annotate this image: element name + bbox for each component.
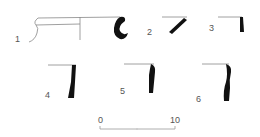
sherd-4-drawing <box>48 65 76 98</box>
sherd-label-6: 6 <box>196 95 201 104</box>
profiles-drawing <box>0 0 260 137</box>
sherd-6-drawing <box>202 64 231 101</box>
sherd-label-3: 3 <box>209 24 214 33</box>
sherd-2-drawing <box>162 17 187 34</box>
scale-bar <box>100 126 175 130</box>
scale-start-label: 0 <box>98 116 103 125</box>
sherd-5-drawing <box>124 64 155 93</box>
sherd-label-2: 2 <box>147 28 152 37</box>
sherd-label-4: 4 <box>45 91 50 100</box>
sherd-label-1: 1 <box>15 35 20 44</box>
sherd-3-drawing <box>218 17 244 32</box>
sherd-1-drawing <box>29 17 128 42</box>
scale-end-label: 10 <box>170 116 180 125</box>
sherd-label-5: 5 <box>120 87 125 96</box>
